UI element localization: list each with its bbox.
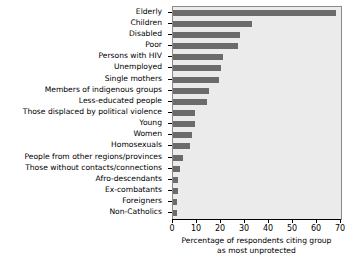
x-tick [172,219,173,223]
category-label: Afro-descendants [96,175,162,183]
bar [173,21,252,27]
category-label: Single mothers [105,75,162,83]
x-tick-label: 40 [263,224,273,233]
x-tick-label: 70 [335,224,345,233]
bar [173,43,238,49]
bar [173,32,240,38]
y-tick [168,145,172,146]
y-tick [168,112,172,113]
x-axis-title-line2: as most unprotected [172,246,341,256]
category-label: Poor [145,41,162,49]
y-tick [168,212,172,213]
y-tick [168,123,172,124]
category-label: Ex-combatants [105,186,162,194]
bar [173,155,183,161]
category-label: Elderly [136,8,162,16]
y-tick [168,179,172,180]
category-label: Members of indigenous groups [45,86,162,94]
y-tick [168,45,172,46]
x-tick [316,219,317,223]
x-tick [292,219,293,223]
category-label: Unemployed [114,63,162,71]
bar [173,199,177,205]
category-label: Those without contacts/connections [25,164,162,172]
category-label: Homosexuals [111,141,162,149]
y-tick [168,12,172,13]
category-label: Foreigners [122,197,162,205]
x-tick [244,219,245,223]
y-tick [168,56,172,57]
bar [173,77,219,83]
category-label: Children [130,19,162,27]
x-tick-label: 60 [311,224,321,233]
bar [173,132,192,138]
bar [173,121,195,127]
category-label: Those displaced by political violence [23,108,162,116]
bar [173,88,209,94]
y-tick [168,190,172,191]
x-tick-label: 10 [191,224,201,233]
x-tick-label: 50 [287,224,297,233]
bar [173,10,336,16]
category-label: People from other regions/provinces [24,153,162,161]
category-label: Disabled [129,30,162,38]
x-tick-label: 30 [239,224,249,233]
x-tick-label: 0 [169,224,174,233]
bar [173,210,177,216]
y-tick [168,101,172,102]
x-axis-title-line1: Percentage of respondents citing group [172,236,341,246]
category-label: Persons with HIV [98,52,162,60]
category-label: Young [139,119,162,127]
bar [173,166,180,172]
x-tick [196,219,197,223]
bar [173,177,178,183]
x-tick [340,219,341,223]
x-tick [268,219,269,223]
bar [173,188,178,194]
category-label: Non-Catholics [109,208,162,216]
category-axis: ElderlyChildrenDisabledPoorPersons with … [0,6,166,218]
plot-area [172,6,342,220]
x-axis-title: Percentage of respondents citing group a… [172,236,341,256]
y-tick [168,67,172,68]
y-tick [168,90,172,91]
bar [173,99,207,105]
category-label: Women [133,130,162,138]
y-tick [168,201,172,202]
category-label: Less-educated people [79,97,162,105]
x-tick-label: 20 [215,224,225,233]
bar-chart: ElderlyChildrenDisabledPoorPersons with … [0,0,350,260]
y-tick [168,34,172,35]
y-tick [168,134,172,135]
bar [173,54,223,60]
bar [173,65,221,71]
y-tick [168,168,172,169]
bar [173,143,190,149]
y-tick [168,23,172,24]
y-tick [168,79,172,80]
y-tick [168,157,172,158]
x-tick [220,219,221,223]
bar [173,110,195,116]
